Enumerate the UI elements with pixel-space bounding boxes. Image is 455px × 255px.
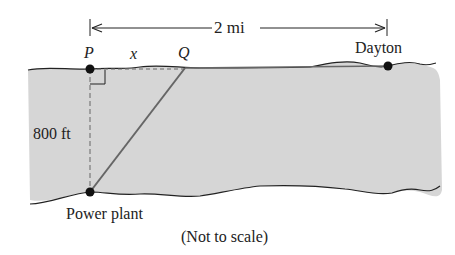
point-q-label: Q: [178, 45, 190, 61]
point-p-dot: [86, 65, 95, 74]
power-plant-dot: [86, 188, 95, 197]
distance-label: 2 mi: [214, 19, 245, 36]
point-p-label: P: [84, 45, 94, 61]
dayton-dot: [384, 62, 393, 71]
power-plant-label: Power plant: [66, 206, 143, 222]
depth-label: 800 ft: [33, 126, 71, 142]
river-region: [28, 62, 442, 201]
dayton-label: Dayton: [355, 40, 402, 56]
not-to-scale-note: (Not to scale): [181, 229, 268, 245]
diagram-canvas: 2 mi P x Q Dayton 800 ft Power plant (No…: [0, 0, 455, 255]
segment-x-label: x: [130, 46, 137, 62]
